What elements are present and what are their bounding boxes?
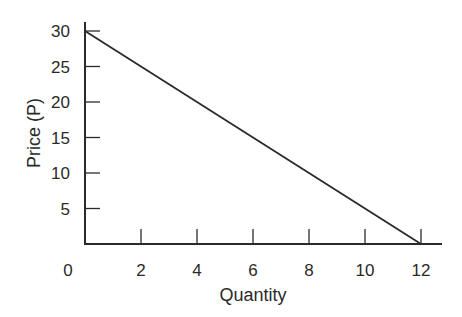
- y-tick-label: 25: [51, 58, 70, 77]
- y-tick-label: 20: [51, 93, 70, 112]
- x-tick-label: 8: [304, 261, 313, 280]
- y-tick-label: 15: [51, 129, 70, 148]
- y-tick-label: 5: [61, 200, 70, 219]
- x-tick-label: 2: [136, 261, 145, 280]
- axes: [84, 22, 442, 244]
- origin-label: 0: [63, 261, 72, 280]
- demand-chart: 5101520253024681012 0 Quantity Price (P): [0, 0, 462, 317]
- x-tick-label: 10: [356, 261, 375, 280]
- x-axis-label: Quantity: [219, 285, 286, 305]
- x-tick-label: 4: [192, 261, 201, 280]
- ticks: 5101520253024681012: [51, 22, 430, 280]
- x-tick-label: 6: [248, 261, 257, 280]
- y-axis-label: Price (P): [24, 98, 44, 168]
- x-tick-label: 12: [412, 261, 431, 280]
- y-tick-label: 30: [51, 22, 70, 41]
- y-tick-label: 10: [51, 164, 70, 183]
- demand-line: [85, 31, 421, 244]
- series: [85, 31, 421, 244]
